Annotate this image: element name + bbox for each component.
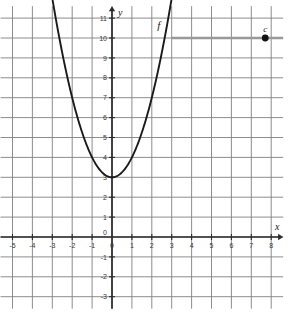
y-tick-label: -2 (101, 273, 107, 280)
y-tick-label: 5 (103, 134, 107, 141)
point-label-c: c (263, 24, 267, 34)
x-tick-label: -3 (49, 242, 55, 249)
x-axis-arrowhead (278, 234, 283, 240)
x-tick-label: 7 (249, 242, 253, 249)
x-tick-label: 3 (170, 242, 174, 249)
grid-lines (1, 6, 284, 308)
y-axis-arrowhead (109, 6, 115, 11)
y-tick-label: 10 (99, 35, 107, 42)
y-tick-label: 6 (103, 114, 107, 121)
x-tick-label: -2 (69, 242, 75, 249)
y-axis-label: y (117, 7, 123, 18)
y-tick-label: 7 (103, 94, 107, 101)
y-tick-label: 11 (100, 15, 107, 22)
x-tick-label: 5 (210, 242, 214, 249)
x-tick-label: 0 (110, 242, 114, 249)
graph-figure: -5-4-3-2-1012345678-3-2-101234567891011 … (0, 0, 288, 329)
y-tick-label: -1 (101, 254, 107, 261)
x-tick-label: 8 (269, 242, 273, 249)
x-tick-label: 4 (190, 242, 194, 249)
x-tick-label: -4 (29, 242, 35, 249)
x-tick-label: -5 (9, 242, 15, 249)
y-tick-label: -3 (101, 293, 107, 300)
y-tick-label: 0 (103, 229, 107, 236)
y-tick-label: 8 (103, 74, 107, 81)
x-tick-label: 2 (150, 242, 154, 249)
y-tick-label: 1 (103, 214, 107, 221)
function-label-f: f (157, 19, 162, 31)
x-axis-label: x (274, 221, 280, 232)
x-tick-label: 1 (130, 242, 134, 249)
point-c-marker (262, 35, 269, 42)
y-tick-label: 9 (103, 55, 107, 62)
x-tick-label: 6 (229, 242, 233, 249)
coordinate-plane: -5-4-3-2-1012345678-3-2-101234567891011 … (0, 0, 288, 329)
y-tick-label: 2 (103, 194, 107, 201)
x-tick-label: -1 (89, 242, 95, 249)
data-point-c (262, 35, 269, 42)
y-tick-label: 4 (103, 154, 107, 161)
